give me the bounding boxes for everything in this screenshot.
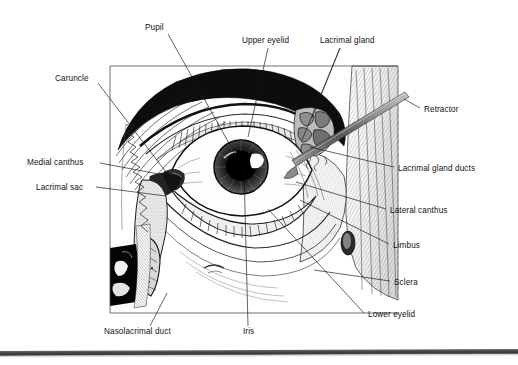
label-nasolacrimal-duct: Nasolacrimal duct xyxy=(104,327,171,337)
figure-page: PupilUpper eyelidLacrimal glandCaruncleR… xyxy=(0,0,518,365)
label-upper-eyelid: Upper eyelid xyxy=(242,36,289,46)
label-lacrimal-sac: Lacrimal sac xyxy=(36,183,83,193)
label-medial-canthus: Medial canthus xyxy=(27,158,83,168)
label-sclera: Sclera xyxy=(394,278,418,288)
label-lacrimal-gland: Lacrimal gland xyxy=(320,36,375,46)
label-retractor: Retractor xyxy=(424,105,459,115)
label-caruncle: Caruncle xyxy=(55,74,89,84)
label-lower-eyelid: Lower eyelid xyxy=(368,310,415,320)
label-lacrimal-gland-ducts: Lacrimal gland ducts xyxy=(398,164,475,174)
label-limbus: Limbus xyxy=(393,241,420,251)
label-lateral-canthus: Lateral canthus xyxy=(390,206,448,216)
label-pupil: Pupil xyxy=(145,23,164,33)
label-iris: Iris xyxy=(243,327,254,337)
